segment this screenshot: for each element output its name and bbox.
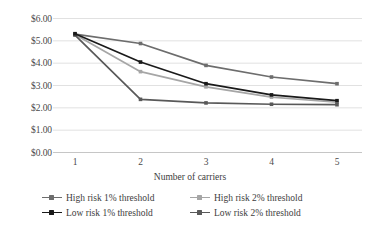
data-point-marker [139,60,143,64]
chart-legend: High risk 1% thresholdHigh risk 2% thres… [0,190,380,220]
legend-item[interactable]: Low risk 1% threshold [42,208,190,218]
data-point-marker [335,103,339,107]
x-axis-tick-label: 4 [269,157,274,167]
legend-marker-icon [190,208,210,218]
data-point-marker [204,85,208,89]
legend-item[interactable]: High risk 1% threshold [42,193,190,203]
legend-label: Low risk 2% threshold [214,208,301,218]
x-axis-tick-label: 1 [73,157,78,167]
legend-row: Low risk 1% thresholdLow risk 2% thresho… [0,205,380,220]
legend-row: High risk 1% thresholdHigh risk 2% thres… [0,190,380,205]
data-point-marker [204,101,208,105]
data-point-marker [73,32,77,36]
series-line [75,35,337,103]
legend-item[interactable]: High risk 2% threshold [190,193,338,203]
series-line [75,35,337,105]
x-axis-title: Number of carriers [0,172,380,182]
legend-label: Low risk 1% threshold [66,208,153,218]
data-point-marker [139,98,143,102]
legend-label: High risk 2% threshold [214,193,302,203]
series-4 [73,33,339,106]
data-point-marker [139,42,143,46]
legend-item[interactable]: Low risk 2% threshold [190,208,338,218]
data-point-marker [335,99,339,103]
data-point-marker [270,102,274,106]
x-axis-tick-label: 3 [204,157,209,167]
series-1 [73,32,339,85]
series-2 [73,33,339,104]
series-line [75,34,337,84]
legend-marker-icon [42,208,62,218]
data-point-marker [270,93,274,97]
legend-marker-icon [190,193,210,203]
data-point-marker [204,64,208,68]
x-axis-tick-label: 5 [335,157,340,167]
data-point-marker [270,75,274,79]
data-point-marker [335,82,339,86]
line-chart: $0.00$1.00$2.00$3.00$4.00$5.00$6.00 1234… [0,0,380,228]
data-point-marker [204,82,208,86]
legend-marker-icon [42,193,62,203]
legend-label: High risk 1% threshold [66,193,154,203]
x-axis-tick-label: 2 [138,157,143,167]
data-point-marker [139,70,143,74]
